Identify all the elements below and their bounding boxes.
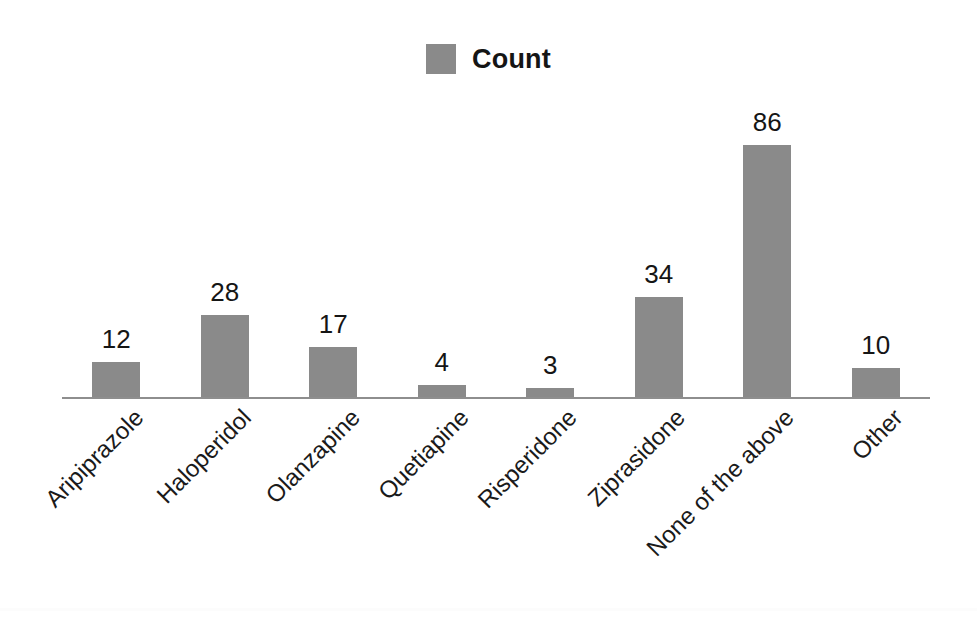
x-tick-label-wrap: Olanzapine — [279, 401, 388, 591]
bar-group: 86 — [713, 110, 822, 397]
bar — [309, 347, 357, 397]
bar-value-label: 34 — [644, 261, 673, 287]
x-tick-label-wrap: Aripiprazole — [62, 401, 171, 591]
bar-value-label: 4 — [435, 349, 449, 375]
bar-value-label: 86 — [753, 109, 782, 135]
bar-group: 17 — [279, 110, 388, 397]
bar-value-label: 12 — [102, 326, 131, 352]
bar-value-label: 10 — [861, 332, 890, 358]
bar-chart-figure: Count 12281743348610 AripiprazoleHaloper… — [0, 0, 977, 619]
bar — [635, 297, 683, 397]
x-axis-tick-labels: AripiprazoleHaloperidolOlanzapineQuetiap… — [62, 401, 930, 591]
bar — [92, 362, 140, 397]
bar-group: 28 — [171, 110, 280, 397]
bar — [852, 368, 900, 397]
scan-artifact-line — [0, 608, 977, 611]
bar-group: 12 — [62, 110, 171, 397]
legend-swatch-count — [426, 44, 456, 74]
bar-value-label: 17 — [319, 311, 348, 337]
chart-legend: Count — [0, 44, 977, 74]
bar-group: 3 — [496, 110, 605, 397]
x-tick-label: Other — [847, 405, 906, 464]
x-tick-label-wrap: Haloperidol — [171, 401, 280, 591]
bars-container: 12281743348610 — [62, 110, 930, 397]
bar — [526, 388, 574, 397]
plot-area: 12281743348610 — [62, 110, 930, 399]
legend-label-count: Count — [472, 46, 551, 73]
bar — [743, 145, 791, 397]
bar-group: 4 — [388, 110, 497, 397]
bar-group: 34 — [605, 110, 714, 397]
x-tick-label: Quetiapine — [374, 405, 473, 504]
bar-group: 10 — [822, 110, 931, 397]
bar — [418, 385, 466, 397]
x-tick-label-wrap: None of the above — [713, 401, 822, 591]
x-tick-label-wrap: Other — [822, 401, 931, 591]
x-axis-line — [62, 397, 930, 399]
bar-value-label: 28 — [210, 279, 239, 305]
bar — [201, 315, 249, 397]
bar-value-label: 3 — [543, 352, 557, 378]
x-tick-label: Aripiprazole — [41, 405, 148, 512]
